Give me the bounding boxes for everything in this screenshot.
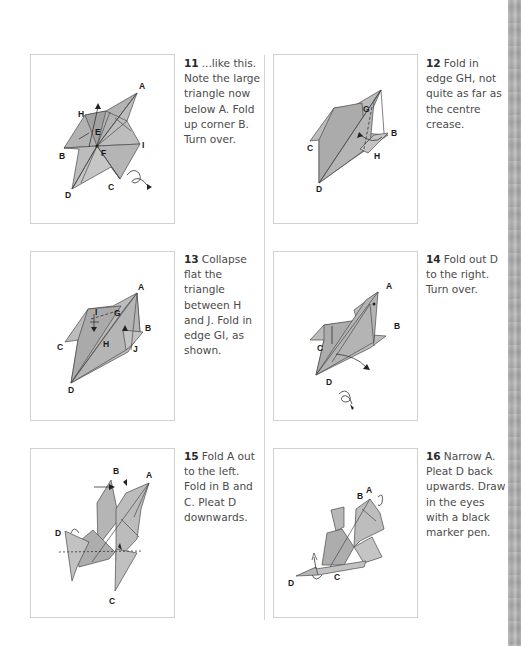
label-a: A — [146, 470, 152, 480]
step-15-caption: 15Fold A out to the left. Fold in B and … — [184, 449, 264, 525]
step-14-caption: 14Fold out D to the right. Turn over. — [426, 252, 506, 298]
step-16-diagram: B A D C — [273, 448, 418, 618]
step-16-caption: 16Narrow A. Pleat D back upwards. Draw i… — [426, 449, 506, 540]
label-e: E — [95, 127, 101, 137]
label-a: A — [139, 81, 145, 91]
step-number: 13 — [184, 253, 199, 265]
origami-diagram-14: A B C D — [274, 252, 419, 422]
label-g: G — [363, 104, 370, 114]
label-h: H — [78, 109, 84, 119]
label-c: C — [109, 596, 115, 606]
step-13-diagram: A I G B C H J D — [30, 251, 175, 421]
label-d: D — [288, 578, 294, 588]
label-c: C — [57, 342, 63, 352]
label-b: B — [59, 151, 65, 161]
label-b: B — [357, 491, 363, 501]
origami-diagram-15: B A D C — [31, 449, 176, 619]
label-b: B — [394, 321, 400, 331]
origami-diagram-12: G B C H D — [274, 55, 419, 225]
step-11-caption: 11...like this. Note the large triangle … — [184, 56, 264, 147]
label-d: D — [55, 528, 61, 538]
origami-diagram-13: A I G B C H J D — [31, 252, 176, 422]
label-a: A — [138, 282, 144, 292]
label-g: G — [114, 308, 121, 318]
label-c: C — [108, 182, 114, 192]
step-12-caption: 12Fold in edge GH, not quite as far as t… — [426, 56, 506, 132]
label-d: D — [326, 377, 332, 387]
step-text: Collapse flat the triangle between H and… — [184, 253, 252, 356]
label-i: I — [142, 140, 144, 150]
page-edge-strip — [508, 0, 521, 646]
label-j: J — [133, 344, 138, 354]
step-number: 14 — [426, 253, 441, 265]
step-11-diagram: A H E B F I D C — [30, 54, 175, 224]
label-c: C — [317, 343, 323, 353]
label-i: I — [95, 307, 97, 317]
label-h: H — [374, 151, 380, 161]
label-h: H — [103, 339, 109, 349]
step-number: 16 — [426, 450, 441, 462]
step-number: 12 — [426, 57, 441, 69]
label-b: B — [113, 466, 119, 476]
label-a: A — [386, 281, 392, 291]
label-f: F — [101, 148, 106, 158]
step-12-diagram: G B C H D — [273, 54, 418, 224]
column-divider — [264, 55, 265, 620]
step-14-diagram: A B C D — [273, 251, 418, 421]
label-c: C — [334, 572, 340, 582]
step-15-diagram: B A D C — [30, 448, 175, 618]
label-d: D — [316, 184, 322, 194]
step-text: ...like this. Note the large triangle no… — [184, 57, 260, 145]
label-a: A — [366, 485, 372, 495]
label-b: B — [145, 323, 151, 333]
label-b: B — [391, 128, 397, 138]
step-number: 11 — [184, 57, 199, 69]
label-c: C — [307, 143, 313, 153]
step-text: Narrow A. Pleat D back upwards. Draw in … — [426, 450, 505, 538]
origami-diagram-11: A H E B F I D C — [31, 55, 176, 225]
step-13-caption: 13Collapse flat the triangle between H a… — [184, 252, 264, 358]
label-d: D — [68, 385, 74, 395]
step-number: 15 — [184, 450, 199, 462]
origami-diagram-16: B A D C — [274, 449, 419, 619]
label-d: D — [65, 190, 71, 200]
